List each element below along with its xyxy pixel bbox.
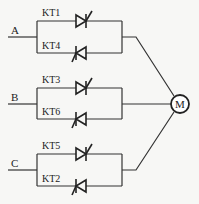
- thyristor-label-kt4: KT4: [42, 40, 60, 51]
- thyristor-label-kt6: KT6: [42, 106, 60, 117]
- motor-label: M: [175, 98, 185, 110]
- thyristor-label-kt5: KT5: [42, 140, 60, 151]
- motor: M: [171, 95, 189, 113]
- circuit-diagram: A KT1 KT4 B: [0, 0, 199, 204]
- phase-c-label: C: [11, 157, 18, 169]
- thyristor-icon: [72, 46, 86, 62]
- phase-c-output-wire: [122, 112, 174, 170]
- thyristor-label-kt3: KT3: [42, 74, 60, 85]
- thyristor-icon: [72, 112, 86, 128]
- phase-a-output-wire: [122, 37, 174, 96]
- phase-a-group: A KT1 KT4: [8, 7, 174, 96]
- thyristor-icon: [76, 78, 92, 95]
- thyristor-label-kt2: KT2: [42, 173, 60, 184]
- phase-b-group: B KT3 KT6: [8, 74, 171, 128]
- phase-b-label: B: [11, 91, 18, 103]
- thyristor-icon: [76, 11, 92, 28]
- phase-a-label: A: [11, 24, 19, 36]
- thyristor-label-kt1: KT1: [42, 7, 60, 18]
- phase-c-group: C KT5 KT2: [8, 112, 174, 195]
- thyristor-icon: [76, 144, 92, 161]
- thyristor-icon: [72, 179, 86, 195]
